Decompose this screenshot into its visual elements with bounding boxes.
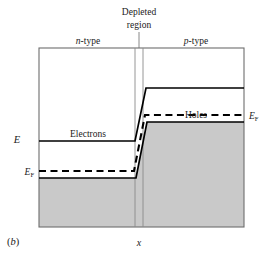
p-type-label: p-type (183, 36, 208, 46)
n-type-suffix: -type (81, 36, 101, 46)
depleted-region-label-line1: Depleted (122, 7, 157, 17)
panel-label: (b) (7, 236, 20, 248)
p-type-suffix: -type (189, 36, 209, 46)
depleted-region-label-line2: region (127, 20, 152, 30)
x-axis-label: x (136, 237, 142, 248)
holes-label: Holes (185, 110, 207, 120)
fermi-label-right-subscript: F (255, 115, 259, 122)
pn-junction-band-diagram: Depleted region n-type p-type Electrons … (0, 0, 266, 254)
fermi-label-left-subscript: F (30, 171, 34, 178)
n-type-label: n-type (76, 36, 100, 46)
electrons-label: Electrons (70, 129, 106, 139)
y-axis-label: E (13, 134, 21, 145)
